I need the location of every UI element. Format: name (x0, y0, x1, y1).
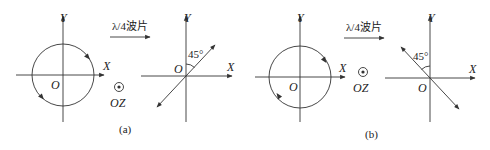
panel-b-angle-label: 45° (413, 50, 428, 62)
panel-a-operator-label: λ/4波片 (112, 20, 148, 32)
diagram-graphics (0, 0, 490, 150)
panel-a-caption: (a) (119, 123, 131, 135)
panel-b-output-y-label: Y (428, 12, 435, 24)
panel-b-input-y-label: Y (297, 12, 304, 24)
panel-a-propagation-label: OZ (110, 97, 125, 109)
panel-b-input-x-label: X (339, 62, 346, 74)
panel-a-angle-label: 45° (188, 48, 203, 60)
panel-a-output-origin-label: O (174, 63, 183, 75)
panel-b-propagation-symbol (359, 68, 368, 77)
panel-b-input-axes (255, 16, 345, 122)
polarization-diagram: Y X O λ/4波片 OZ Y X O 45° (a) Y X O λ/4波片… (0, 0, 490, 150)
panel-a-input-axes (16, 16, 104, 122)
panel-b-propagation-label: OZ (353, 82, 368, 94)
panel-b-caption: (b) (365, 128, 378, 140)
panel-b-input-origin-label: O (289, 81, 298, 93)
panel-a-input-origin-label: O (51, 79, 60, 91)
panel-a-output-x-label: X (227, 61, 234, 73)
panel-b-rotation-arrows (275, 57, 329, 100)
panel-a-propagation-symbol (115, 83, 124, 92)
panel-a-output-axes (141, 16, 232, 122)
panel-b-operator-label: λ/4波片 (346, 21, 382, 33)
panel-a-input-x-label: X (103, 60, 110, 72)
panel-b-output-axes (385, 16, 475, 122)
panel-b-output-x-label: X (469, 63, 476, 75)
panel-a-rotation-arrows (38, 53, 92, 101)
panel-b-output-origin-label: O (418, 82, 427, 94)
panel-a-output-y-label: Y (184, 12, 191, 24)
panel-a-input-y-label: Y (60, 12, 67, 24)
